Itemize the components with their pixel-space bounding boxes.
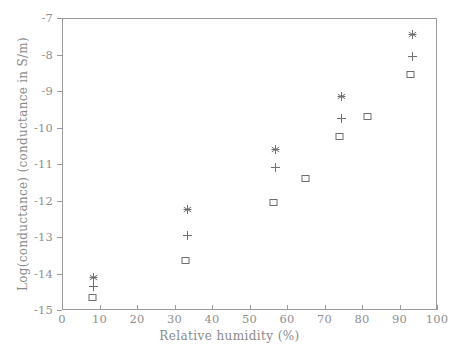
x-tick-label: 60 (267, 313, 307, 325)
x-tick-label: 40 (192, 313, 232, 325)
x-tick-label: 50 (230, 313, 270, 325)
x-tick-label: 30 (155, 313, 195, 325)
x-tick (362, 305, 363, 310)
y-tick (57, 164, 62, 165)
x-tick (400, 305, 401, 310)
y-tick (57, 55, 62, 56)
x-tick (62, 305, 63, 310)
scatter-chart-figure: 0102030405060708090100 -15-14-13-12-11-1… (0, 0, 459, 352)
y-tick (57, 237, 62, 238)
x-tick (137, 305, 138, 310)
x-tick-label: 20 (117, 313, 157, 325)
y-tick (57, 201, 62, 202)
y-tick (57, 310, 62, 311)
plot-area (62, 18, 437, 310)
x-tick (287, 305, 288, 310)
y-tick (57, 18, 62, 19)
x-tick (175, 305, 176, 310)
y-axis-title-wrapper: Log(conductance) (conductance in S/m) (12, 14, 28, 314)
x-tick (212, 305, 213, 310)
x-tick-label: 70 (305, 313, 345, 325)
x-tick (100, 305, 101, 310)
x-tick-label: 80 (342, 313, 382, 325)
x-tick (437, 305, 438, 310)
y-tick (57, 274, 62, 275)
x-tick-label: 10 (80, 313, 120, 325)
y-tick (57, 91, 62, 92)
x-tick-label: 90 (380, 313, 420, 325)
y-tick (57, 128, 62, 129)
x-tick-label: 100 (417, 313, 457, 325)
x-tick (325, 305, 326, 310)
x-axis-title: Relative humidity (%) (0, 329, 459, 343)
y-axis-title: Log(conductance) (conductance in S/m) (16, 37, 30, 291)
x-tick (250, 305, 251, 310)
